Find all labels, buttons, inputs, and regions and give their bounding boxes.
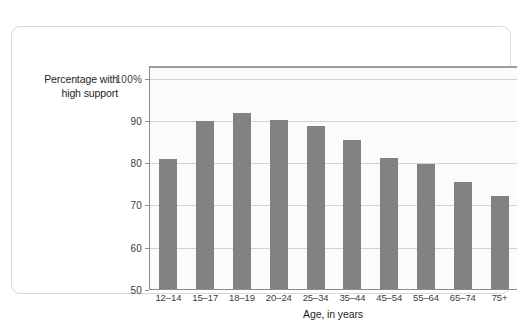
x-axis-tick-label-20–24: 20–24 [266, 292, 292, 303]
bar-slot [187, 66, 224, 289]
x-axis-tick-labels: 12–1415–1718–1920–2425–3435–4445–5455–64… [150, 292, 517, 306]
x-axis-tick-label-75+: 75+ [492, 292, 508, 303]
bar-20–24 [270, 120, 288, 289]
x-axis-tick-label-15–17: 15–17 [192, 292, 218, 303]
bar-slot [224, 66, 261, 289]
x-axis-tick-label-35–44: 35–44 [339, 292, 365, 303]
bar-15–17 [196, 121, 214, 289]
bar-75+ [491, 196, 509, 289]
bar-slot [334, 66, 371, 289]
x-axis-tick-label-55–64: 55–64 [413, 292, 439, 303]
x-axis-tick-label-65–74: 65–74 [450, 292, 476, 303]
bar-12–14 [159, 159, 177, 289]
y-axis-tick-label-60: 60 [130, 242, 142, 253]
plot-area: 100%9080706050 [149, 66, 517, 290]
y-axis-tick-label-90: 90 [130, 115, 142, 126]
bar-slot [150, 66, 187, 289]
bar-slot [444, 66, 481, 289]
y-axis-tick-label-100: 100% [116, 73, 142, 84]
bar-65–74 [454, 182, 472, 289]
y-axis-tick-label-70: 70 [130, 200, 142, 211]
bar-slot [297, 66, 334, 289]
bar-25–34 [307, 126, 325, 289]
y-axis-tick-50 [145, 290, 149, 291]
bar-slot [408, 66, 445, 289]
bar-series [150, 66, 517, 289]
bar-slot [260, 66, 297, 289]
bar-35–44 [343, 140, 361, 289]
x-axis-tick-label-25–34: 25–34 [303, 292, 329, 303]
y-axis-tick-label-80: 80 [130, 158, 142, 169]
bar-45–54 [380, 158, 398, 289]
y-axis-title: Percentage with high support [30, 73, 118, 100]
figure-card: Percentage with high support 100%9080706… [11, 26, 511, 294]
y-axis-title-line-2: high support [30, 87, 118, 101]
x-axis-title: Age, in years [149, 308, 517, 320]
y-axis-title-line-1: Percentage with [30, 73, 118, 87]
y-axis-line [149, 66, 150, 290]
x-axis-tick-label-12–14: 12–14 [155, 292, 181, 303]
x-axis-line [149, 289, 517, 290]
y-axis-tick-label-50: 50 [130, 285, 142, 296]
bar-55–64 [417, 164, 435, 289]
bar-18–19 [233, 113, 251, 290]
x-axis-tick-label-18–19: 18–19 [229, 292, 255, 303]
bar-slot [371, 66, 408, 289]
x-axis-tick-label-45–54: 45–54 [376, 292, 402, 303]
bar-slot [481, 66, 518, 289]
